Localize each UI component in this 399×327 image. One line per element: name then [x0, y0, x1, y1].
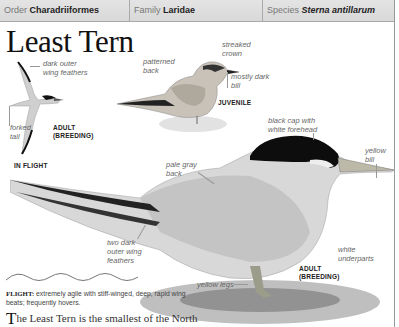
- label-pale-gray-back: pale grayback: [166, 160, 197, 178]
- order-value: Charadriiformes: [30, 5, 100, 15]
- leader-line: [234, 284, 248, 285]
- flight-description: FLIGHT: extremely agile with stiff-winge…: [6, 289, 196, 307]
- family-value: Laridae: [163, 5, 195, 15]
- body-paragraph: The Least Tern is the smallest of the No…: [6, 309, 197, 327]
- tag-juvenile: JUVENILE: [218, 99, 251, 107]
- label-yellow-legs: yellow legs: [197, 280, 234, 289]
- label-dark-outer-wing: dark outerwing feathers: [43, 59, 88, 77]
- label-streaked-crown: streakedcrown: [222, 40, 251, 58]
- label-two-dark-outer-wing-feathers: two darkouter wingfeathers: [107, 238, 142, 265]
- label-black-cap: black cap withwhite forehead: [268, 116, 317, 134]
- label-white-underparts: whiteunderparts: [338, 245, 374, 263]
- taxonomy-header: Order Charadriiformes Family Laridae Spe…: [0, 0, 394, 22]
- label-yellow-bill: yellowbill: [365, 146, 386, 164]
- species-value: Sterna antillarum: [302, 5, 376, 15]
- leader-line: [313, 133, 314, 140]
- order-cell: Order Charadriiformes: [0, 0, 130, 21]
- tag-adult-breeding: ADULT(BREEDING): [299, 265, 340, 281]
- label-patterned-back: patternedback: [143, 57, 175, 75]
- leader-line: [30, 66, 40, 67]
- family-cell: Family Laridae: [130, 0, 263, 21]
- leader-line: [227, 72, 228, 88]
- drop-cap: T: [6, 309, 16, 327]
- flight-pattern-wave-icon: [6, 270, 146, 284]
- leader-line: [376, 164, 377, 178]
- label-mostly-dark-bill: mostly darkbill: [231, 72, 269, 90]
- juvenile-tern-illustration: [115, 48, 240, 136]
- species-cell: Species Sterna antillarum: [263, 0, 394, 21]
